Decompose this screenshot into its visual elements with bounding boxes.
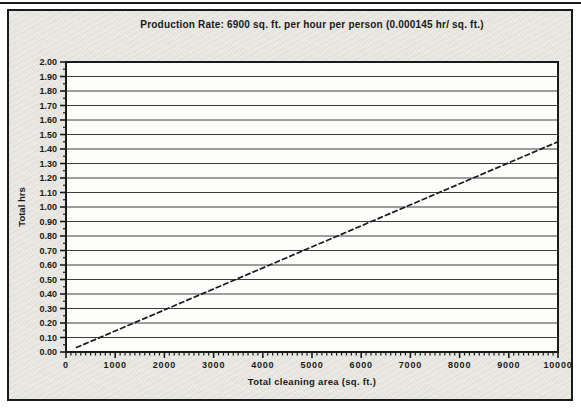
y-tick-label: 1.80 — [39, 86, 57, 96]
chart-plot: 0.000.100.200.300.400.500.600.700.800.90… — [0, 0, 581, 410]
y-tick-label: 0.10 — [39, 333, 57, 343]
y-tick-label: 0.50 — [39, 275, 57, 285]
x-tick-label: 2000 — [153, 360, 176, 370]
y-tick-label: 1.00 — [39, 202, 57, 212]
y-tick-label: 0.00 — [39, 347, 57, 357]
y-tick-label: 1.40 — [39, 144, 57, 154]
y-tick-label: 1.20 — [39, 173, 57, 183]
y-tick-label: 2.00 — [39, 57, 57, 67]
y-tick-label: 0.70 — [39, 246, 57, 256]
y-tick-label: 1.70 — [39, 101, 57, 111]
y-tick-label: 0.20 — [39, 318, 57, 328]
x-tick-label: 3000 — [202, 360, 225, 370]
x-axis-title: Total cleaning area (sq. ft.) — [66, 376, 558, 387]
x-tick-label: 0 — [63, 360, 69, 370]
x-tick-label: 1000 — [104, 360, 127, 370]
y-tick-label: 0.90 — [39, 217, 57, 227]
x-tick-label: 6000 — [350, 360, 373, 370]
y-tick-label: 0.40 — [39, 289, 57, 299]
y-tick-label: 1.60 — [39, 115, 57, 125]
y-tick-label: 0.60 — [39, 260, 57, 270]
x-tick-label: 9000 — [497, 360, 520, 370]
x-tick-label: 10000 — [543, 360, 572, 370]
x-tick-label: 5000 — [300, 360, 323, 370]
y-tick-label: 1.30 — [39, 159, 57, 169]
y-tick-label: 1.50 — [39, 130, 57, 140]
y-tick-label: 1.10 — [39, 188, 57, 198]
x-tick-label: 4000 — [251, 360, 274, 370]
y-tick-label: 1.90 — [39, 72, 57, 82]
x-tick-label: 8000 — [448, 360, 471, 370]
x-tick-label: 7000 — [399, 360, 422, 370]
y-tick-label: 0.30 — [39, 304, 57, 314]
y-tick-label: 0.80 — [39, 231, 57, 241]
scanned-chart-page: Production Rate: 6900 sq. ft. per hour p… — [0, 0, 581, 410]
